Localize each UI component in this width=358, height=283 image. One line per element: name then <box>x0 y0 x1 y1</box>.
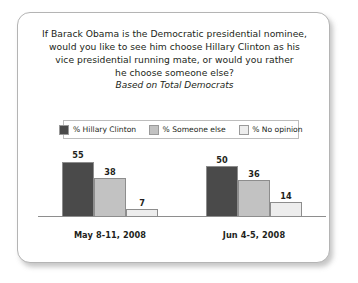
legend-item-hillary-clinton: % Hillary Clinton <box>59 125 136 135</box>
bar-rect-may-someone-else <box>94 178 126 217</box>
chart-title-block: If Barack Obama is the Democratic presid… <box>28 27 321 93</box>
legend-swatch-icon-no-opinion <box>239 125 249 135</box>
chart-title-line-4: he choose someone else? <box>28 66 321 79</box>
poll-result-card: If Barack Obama is the Democratic presid… <box>17 12 330 263</box>
chart-subtitle: Based on Total Democrats <box>28 79 321 92</box>
bar-value-jun-hillary-clinton: 50 <box>216 156 227 165</box>
bar-group-may: 55 38 7 May 8-11, 2008 <box>38 151 182 246</box>
chart-title-line-2: would you like to see him choose Hillary… <box>28 40 321 53</box>
chart-title-line-1: If Barack Obama is the Democratic presid… <box>28 27 321 40</box>
bar-group-may-bars: 55 38 7 <box>38 151 182 217</box>
chart-plot-area: 55 38 7 May 8-11, 2008 <box>38 151 326 246</box>
bar-value-jun-someone-else: 36 <box>248 170 259 179</box>
chart-legend: % Hillary Clinton % Someone else % No op… <box>63 120 299 139</box>
category-label-may: May 8-11, 2008 <box>38 230 182 240</box>
chart-title-line-3: vice presidential running mate, or would… <box>28 53 321 66</box>
bar-jun-no-opinion: 14 <box>270 151 302 217</box>
legend-item-someone-else: % Someone else <box>149 125 226 135</box>
legend-label-someone-else: % Someone else <box>163 125 226 134</box>
bar-value-jun-no-opinion: 14 <box>280 192 291 201</box>
legend-swatch-icon-hillary-clinton <box>59 125 69 135</box>
bar-rect-jun-hillary-clinton <box>206 166 238 217</box>
bar-jun-someone-else: 36 <box>238 151 270 217</box>
bar-group-jun: 50 36 14 Jun 4-5, 2008 <box>182 151 326 246</box>
bar-rect-may-no-opinion <box>126 209 158 217</box>
legend-label-hillary-clinton: % Hillary Clinton <box>73 125 136 134</box>
bar-rect-jun-someone-else <box>238 180 270 217</box>
category-label-jun: Jun 4-5, 2008 <box>182 230 326 240</box>
bar-may-no-opinion: 7 <box>126 151 158 217</box>
screenshot-root: If Barack Obama is the Democratic presid… <box>0 0 358 283</box>
bar-value-may-someone-else: 38 <box>104 168 115 177</box>
bar-value-may-hillary-clinton: 55 <box>72 151 83 160</box>
legend-swatch-icon-someone-else <box>149 125 159 135</box>
bar-may-someone-else: 38 <box>94 151 126 217</box>
legend-item-no-opinion: % No opinion <box>239 125 303 135</box>
bar-value-may-no-opinion: 7 <box>139 199 145 208</box>
bar-groups: 55 38 7 May 8-11, 2008 <box>38 151 326 246</box>
bar-rect-jun-no-opinion <box>270 202 302 217</box>
bar-rect-may-hillary-clinton <box>62 162 94 218</box>
legend-label-no-opinion: % No opinion <box>252 125 302 134</box>
bar-may-hillary-clinton: 55 <box>62 151 94 217</box>
bar-group-jun-bars: 50 36 14 <box>182 151 326 217</box>
bar-jun-hillary-clinton: 50 <box>206 151 238 217</box>
